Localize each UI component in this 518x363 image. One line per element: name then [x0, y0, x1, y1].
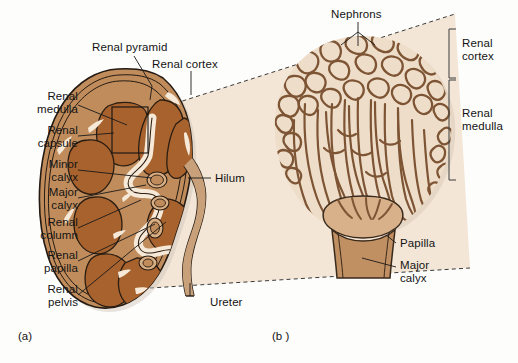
label-renal-medulla-bracket: Renal medulla [462, 107, 503, 132]
label-renal-cortex: Renal cortex [152, 58, 218, 71]
label-renal-papilla: Renal papilla [0, 249, 78, 274]
label-minor-calyx: Minor calyx [0, 158, 78, 183]
label-renal-pyramid: Renal pyramid [92, 41, 167, 54]
label-major-calyx-b: Major calyx [400, 259, 429, 284]
label-papilla: Papilla [400, 237, 435, 250]
label-major-calyx: Major calyx [0, 186, 78, 211]
label-renal-capsule: Renal capsule [0, 124, 78, 149]
label-renal-medulla: Renal medulla [0, 90, 78, 115]
panel-label-b: (b ) [272, 330, 289, 342]
label-renal-cortex-bracket: Renal cortex [462, 37, 494, 62]
kidney-anatomy-figure: Renal pyramid Renal cortex Renal medulla… [0, 0, 518, 363]
label-renal-column: Renal column [0, 216, 78, 241]
label-renal-pelvis: Renal pelvis [0, 283, 78, 308]
label-hilum: Hilum [215, 172, 245, 185]
panel-label-a: (a) [18, 330, 32, 342]
label-ureter: Ureter [210, 296, 243, 309]
label-nephrons: Nephrons [331, 8, 382, 21]
